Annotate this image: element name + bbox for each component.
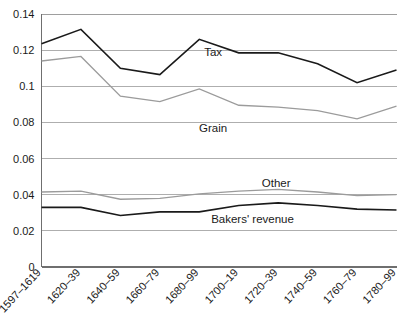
x-axis-tick-label: 1740–59: [281, 266, 319, 306]
x-axis-tick-label: 1780–99: [360, 266, 398, 306]
y-axis-tick-label: 0.04: [13, 189, 34, 201]
series-line-grain: [42, 56, 397, 118]
series-label-bakers-revenue: Bakers' revenue: [211, 213, 294, 225]
x-axis-tick-label: 1640–59: [84, 266, 122, 306]
line-chart: 00.020.040.060.080.10.120.14 TaxGrainOth…: [0, 0, 415, 316]
y-axis-tick-label: 0.08: [13, 116, 34, 128]
series-label-other: Other: [262, 177, 291, 189]
x-axis-tick-label: 1620–39: [44, 266, 82, 306]
x-axis-tick-labels: 1597–16191620–391640–591660–791680–99170…: [0, 266, 398, 314]
y-axis-tick-label: 0.12: [13, 44, 34, 56]
chart-container: 00.020.040.060.080.10.120.14 TaxGrainOth…: [0, 0, 415, 316]
x-axis-tick-label: 1597–1619: [0, 266, 43, 314]
y-axis-tick-labels: 00.020.040.060.080.10.120.14: [13, 8, 34, 273]
x-axis-tick-label: 1720–39: [242, 266, 280, 306]
series-annotations-group: TaxGrainOtherBakers' revenue: [199, 46, 294, 224]
x-axis-tick-label: 1760–79: [321, 266, 359, 306]
y-axis-tick-label: 0.1: [19, 80, 34, 92]
series-line-other: [42, 189, 397, 199]
x-axis-tick-label: 1680–99: [163, 266, 201, 306]
x-axis-tick-label: 1700–19: [202, 266, 240, 306]
x-axis-tick-label: 1660–79: [123, 266, 161, 306]
y-axis-tick-label: 0.14: [13, 8, 34, 20]
y-axis-tick-label: 0.02: [13, 225, 34, 237]
series-label-grain: Grain: [199, 122, 227, 134]
y-axis-tick-label: 0.06: [13, 153, 34, 165]
series-label-tax: Tax: [204, 46, 222, 58]
